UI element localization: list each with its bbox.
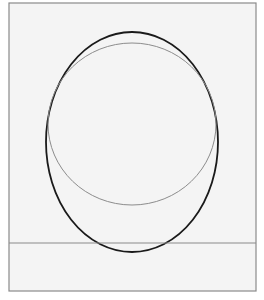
diagram-canvas: [0, 0, 264, 300]
